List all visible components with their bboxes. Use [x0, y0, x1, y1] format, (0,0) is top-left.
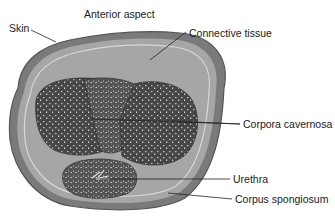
- label-corpus-spongiosum: Corpus spongiosum: [235, 193, 328, 205]
- cross-section-illustration: [0, 0, 335, 216]
- title-anterior-aspect: Anterior aspect: [84, 8, 155, 20]
- label-urethra: Urethra: [233, 173, 268, 185]
- label-connective-tissue: Connective tissue: [189, 27, 272, 39]
- corpus-cavernosum-right: [120, 82, 198, 165]
- label-skin: Skin: [9, 22, 29, 34]
- label-corpora-cavernosa: Corpora cavernosa: [243, 118, 332, 130]
